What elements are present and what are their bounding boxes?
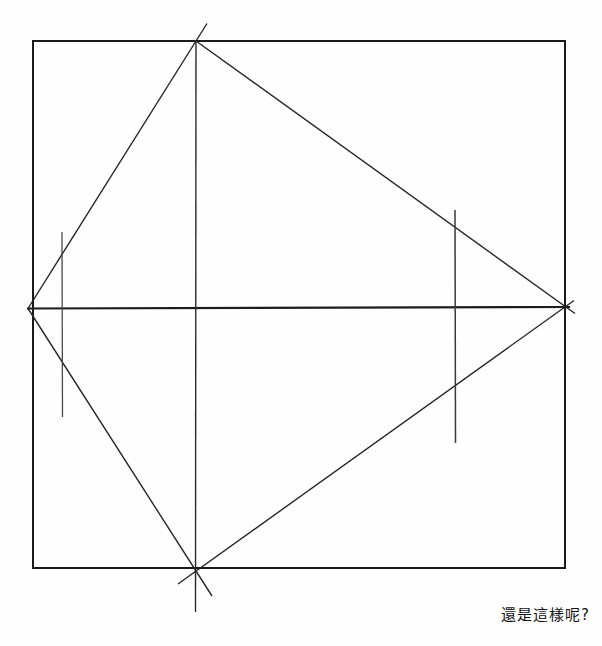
vertical-midline bbox=[196, 41, 197, 612]
geometry-diagram bbox=[0, 0, 602, 646]
right-tick-mark bbox=[455, 210, 456, 443]
left-tick-mark bbox=[62, 232, 63, 417]
drawing-canvas: 還是這樣呢? bbox=[0, 0, 602, 646]
kite-edge-right-bottom bbox=[178, 301, 574, 585]
kite-edge-top-right bbox=[196, 41, 575, 314]
kite-edge-left-top bbox=[28, 24, 207, 309]
caption-text: 還是這樣呢? bbox=[501, 603, 590, 624]
kite-edge-left-bottom bbox=[28, 309, 212, 597]
square-border bbox=[33, 41, 565, 568]
horizontal-midline bbox=[27, 307, 570, 309]
